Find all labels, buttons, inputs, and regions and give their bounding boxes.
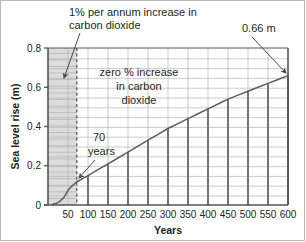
x-tick-label-400: 400 (200, 209, 217, 220)
chart-figure: 0.8 0.6 0.4 0.2 0 50 100 150 200 250 300… (0, 0, 306, 242)
y-tick-label-0.8: 0.8 (27, 43, 41, 54)
co2-increase-title-line2: carbon dioxide (69, 19, 141, 31)
x-tick-label-100: 100 (80, 209, 97, 220)
y-tick-label-0: 0 (35, 200, 41, 211)
x-tick-label-550: 550 (260, 209, 277, 220)
x-axis-title: Years (154, 224, 182, 236)
x-tick-label-200: 200 (120, 209, 137, 220)
y-axis-title: Sea level rise (m) (9, 84, 21, 170)
y-tick-label-0.4: 0.4 (27, 121, 41, 132)
zero-increase-line3: dioxide (122, 94, 157, 106)
seventy-years-line2: years (88, 145, 115, 157)
y-tick-labels: 0.8 0.6 0.4 0.2 0 (27, 43, 41, 211)
zero-increase-line1: zero % increase (100, 66, 179, 78)
seventy-years-line1: 70 (93, 131, 105, 143)
x-tick-label-600: 600 (280, 209, 297, 220)
x-tick-label-350: 350 (180, 209, 197, 220)
x-tick-label-150: 150 (100, 209, 117, 220)
x-tick-label-450: 450 (220, 209, 237, 220)
y-tick-label-0.6: 0.6 (27, 82, 41, 93)
sea-level-rise-chart: 0.8 0.6 0.4 0.2 0 50 100 150 200 250 300… (0, 0, 306, 242)
zero-increase-line2: in carbon (116, 80, 161, 92)
x-tick-label-300: 300 (160, 209, 177, 220)
co2-increase-title-line1: 1% per annum increase in (69, 6, 197, 18)
x-tick-label-500: 500 (240, 209, 257, 220)
x-tick-label-250: 250 (140, 209, 157, 220)
x-tick-label-50: 50 (62, 209, 74, 220)
y-tick-label-0.2: 0.2 (27, 160, 41, 171)
endpoint-value-label: 0.66 m (242, 22, 276, 34)
hatched-zero-increase-region (48, 48, 77, 205)
x-tick-labels: 50 100 150 200 250 300 350 400 450 500 5… (62, 209, 296, 220)
